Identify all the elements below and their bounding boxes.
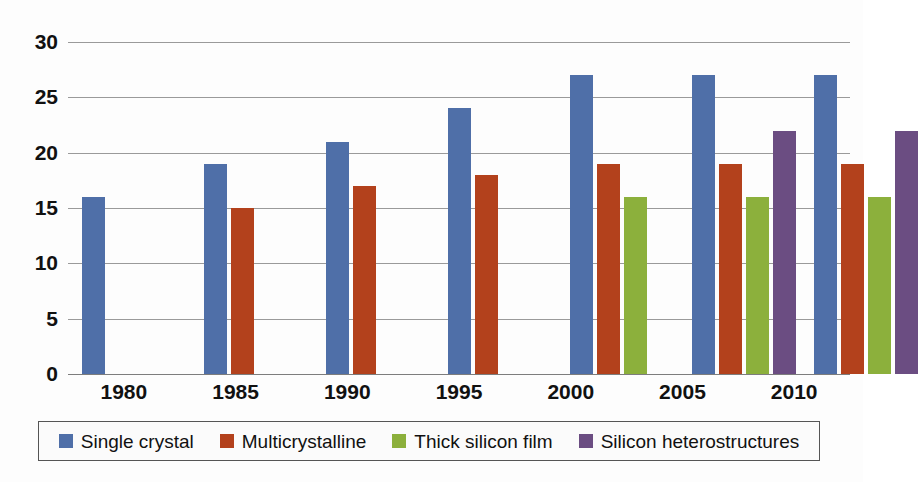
y-tick-label-20: 20 (10, 142, 58, 163)
bar-single-crystal-1985 (204, 164, 227, 374)
bar-group-2000 (556, 42, 678, 374)
y-tick-label-30: 30 (10, 31, 58, 52)
bar-single-crystal-2005 (692, 75, 715, 374)
axis-baseline (68, 374, 850, 375)
bar-groups (68, 42, 850, 374)
bar-group-2005 (678, 42, 800, 374)
y-tick-label-10: 10 (10, 252, 58, 273)
x-tick-label-1980: 1980 (68, 378, 180, 406)
bar-multicrystalline-1985 (231, 208, 254, 374)
legend-swatch-icon (220, 434, 234, 448)
legend-swatch-icon (59, 434, 73, 448)
y-tick-label-15: 15 (10, 197, 58, 218)
bar-multicrystalline-2000 (597, 164, 620, 374)
bar-multicrystalline-1995 (475, 175, 498, 374)
x-tick-label-1995: 1995 (403, 378, 515, 406)
legend-label: Single crystal (81, 432, 194, 451)
bar-multicrystalline-1990 (353, 186, 376, 374)
legend-label: Multicrystalline (242, 432, 367, 451)
bar-single-crystal-1995 (448, 108, 471, 374)
x-tick-label-1990: 1990 (291, 378, 403, 406)
bar-single-crystal-2000 (570, 75, 593, 374)
legend-item-silicon-heterostructures[interactable]: Silicon heterostructures (579, 432, 800, 451)
y-tick-label-0: 0 (10, 363, 58, 384)
bar-multicrystalline-2005 (719, 164, 742, 374)
legend-label: Silicon heterostructures (601, 432, 800, 451)
bar-single-crystal-1990 (326, 142, 349, 374)
y-axis: 051015202530 (0, 42, 58, 374)
bar-group-1995 (434, 42, 556, 374)
x-tick-label-2010: 2010 (738, 378, 850, 406)
x-tick-label-2000: 2000 (515, 378, 627, 406)
bar-thick-silicon-film-2005 (746, 197, 769, 374)
y-tick-label-5: 5 (10, 308, 58, 329)
legend-swatch-icon (579, 434, 593, 448)
bar-group-2010 (800, 42, 922, 374)
legend-swatch-icon (392, 434, 406, 448)
bar-single-crystal-2010 (814, 75, 837, 374)
bar-group-1985 (190, 42, 312, 374)
bar-silicon-heterostructures-2005 (773, 131, 796, 374)
legend-label: Thick silicon film (414, 432, 552, 451)
bar-group-1980 (68, 42, 190, 374)
bar-thick-silicon-film-2010 (868, 197, 891, 374)
x-tick-label-2005: 2005 (627, 378, 739, 406)
x-axis: 1980198519901995200020052010 (68, 378, 850, 406)
y-tick-label-25: 25 (10, 86, 58, 107)
legend-item-multicrystalline[interactable]: Multicrystalline (220, 432, 367, 451)
bar-single-crystal-1980 (82, 197, 105, 374)
chart-legend: Single crystalMulticrystallineThick sili… (38, 421, 820, 461)
x-tick-label-1985: 1985 (180, 378, 292, 406)
legend-item-thick-silicon-film[interactable]: Thick silicon film (392, 432, 552, 451)
bar-group-1990 (312, 42, 434, 374)
bar-thick-silicon-film-2000 (624, 197, 647, 374)
bar-silicon-heterostructures-2010 (895, 131, 918, 374)
legend-item-single-crystal[interactable]: Single crystal (59, 432, 194, 451)
bar-multicrystalline-2010 (841, 164, 864, 374)
